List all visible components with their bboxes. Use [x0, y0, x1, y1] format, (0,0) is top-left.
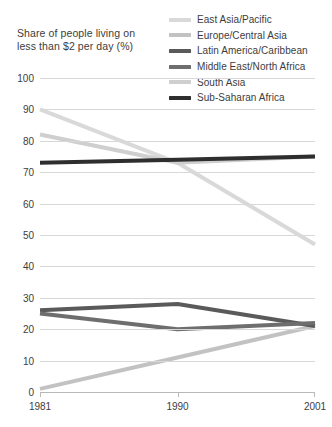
legend-item: Latin America/Caribbean — [169, 43, 329, 59]
y-axis-tick-label: 100 — [0, 73, 34, 84]
chart-title: Share of people living on less than $2 p… — [17, 27, 167, 53]
gridline — [40, 329, 315, 330]
legend-item: East Asia/Pacific — [169, 12, 329, 28]
legend-swatch-icon — [169, 33, 191, 37]
legend-item-label: Latin America/Caribbean — [197, 45, 308, 56]
y-axis-tick-label: 0 — [0, 387, 34, 398]
gridline — [40, 298, 315, 299]
legend-item-label: East Asia/Pacific — [197, 14, 272, 25]
gridline — [40, 141, 315, 142]
x-axis-tick — [40, 392, 41, 397]
series-line — [40, 326, 315, 389]
y-axis-tick-label: 30 — [0, 292, 34, 303]
legend-swatch-icon — [169, 18, 191, 22]
gridline — [40, 172, 315, 173]
y-axis-tick-label: 80 — [0, 135, 34, 146]
gridline — [40, 78, 315, 79]
x-axis-tick-label: 1990 — [166, 401, 188, 412]
gridline — [40, 361, 315, 362]
gridline — [40, 235, 315, 236]
y-axis-tick-label: 50 — [0, 230, 34, 241]
chart-title-line-1: Share of people living on — [17, 27, 167, 40]
y-axis-tick-label: 70 — [0, 167, 34, 178]
series-line — [40, 109, 315, 244]
plot-area: 0102030405060708090100198119902001 — [40, 78, 315, 392]
series-line — [40, 304, 315, 326]
legend-item-label: Europe/Central Asia — [197, 30, 287, 41]
chart-container: Share of people living on less than $2 p… — [0, 0, 332, 427]
legend-item: Europe/Central Asia — [169, 28, 329, 44]
legend-item-label: Middle East/North Africa — [197, 61, 305, 72]
y-axis-tick-label: 10 — [0, 355, 34, 366]
y-axis-tick-label: 60 — [0, 198, 34, 209]
x-axis-tick — [178, 392, 179, 397]
legend-swatch-icon — [169, 65, 191, 69]
x-axis-tick — [314, 392, 315, 397]
y-axis-tick-label: 90 — [0, 104, 34, 115]
y-axis-tick-label: 20 — [0, 324, 34, 335]
x-axis-tick-label: 2001 — [304, 401, 326, 412]
chart-title-line-2: less than $2 per day (%) — [17, 40, 167, 53]
legend-swatch-icon — [169, 49, 191, 53]
y-axis-tick-label: 40 — [0, 261, 34, 272]
gridline — [40, 204, 315, 205]
legend-item: Middle East/North Africa — [169, 59, 329, 75]
gridline — [40, 266, 315, 267]
x-axis-tick-label: 1981 — [29, 401, 51, 412]
gridline — [40, 109, 315, 110]
